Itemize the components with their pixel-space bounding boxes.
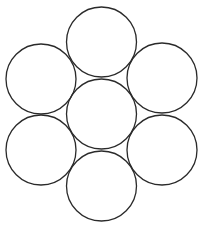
circle-bottom: [67, 151, 137, 221]
circle-lower-left: [6, 115, 76, 185]
circle-lower-right: [127, 115, 197, 185]
circle-top: [67, 7, 137, 77]
circle-center: [67, 79, 137, 149]
hexagonal-circle-packing-diagram: [0, 0, 201, 233]
circle-upper-left: [6, 44, 76, 114]
circle-upper-right: [127, 43, 197, 113]
